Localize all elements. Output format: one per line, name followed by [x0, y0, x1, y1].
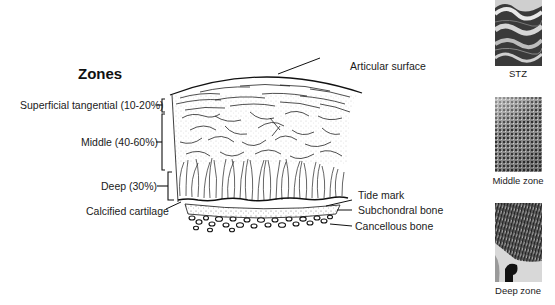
stz-caption: STZ [487, 68, 549, 79]
deep-zone-micrograph-icon [495, 203, 542, 282]
label-cancellous-bone: Cancellous bone [355, 220, 433, 232]
cancellous-bone [189, 215, 333, 232]
label-superficial-tangential: Superficial tangential (10-20%) [20, 99, 164, 111]
zones-title: Zones [78, 65, 122, 82]
label-subchondral-bone: Subchondral bone [358, 204, 443, 216]
zone-brackets [156, 99, 174, 200]
deep-zone-caption: Deep zone [487, 285, 549, 296]
label-articular-surface: Articular surface [350, 60, 426, 72]
stz-micrograph-icon [495, 0, 542, 66]
tide-mark-line [178, 197, 348, 201]
label-middle-zone: Middle (40-60%) [81, 136, 158, 148]
label-deep-zone: Deep (30%) [101, 180, 157, 192]
middle-zone-micrograph-icon [495, 97, 542, 172]
middle-zone-caption: Middle zone [487, 175, 549, 186]
label-tide-mark: Tide mark [358, 189, 404, 201]
label-calcified-cartilage: Calcified cartilage [86, 205, 169, 217]
cartilage-cross-section [0, 0, 555, 305]
